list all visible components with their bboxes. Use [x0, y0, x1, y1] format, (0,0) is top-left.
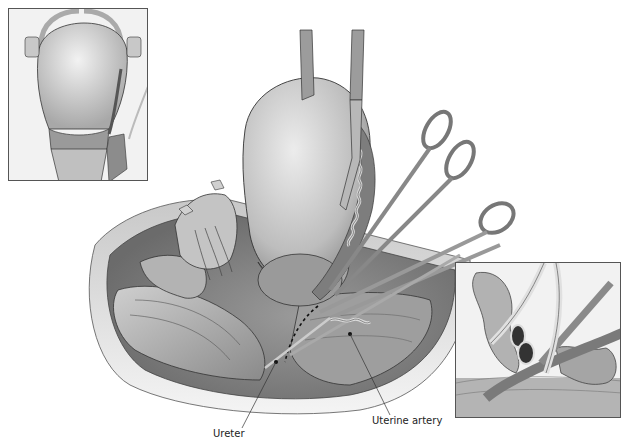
top-left-inset: [8, 8, 148, 181]
inset-uterus-view: [9, 9, 148, 181]
bottom-right-inset: [455, 262, 621, 418]
ureter-label: Ureter: [213, 428, 245, 439]
inset-vessel-clamp-view: [456, 263, 621, 418]
uterine-artery-label: Uterine artery: [372, 415, 442, 426]
